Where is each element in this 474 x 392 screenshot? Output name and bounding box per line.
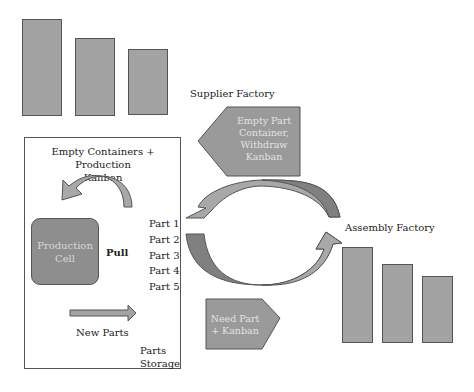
need-banner-text: Need Part + Kanban (208, 313, 262, 337)
cycle-arrow-bottom-icon (186, 232, 342, 285)
new-parts-arrow-icon (70, 305, 136, 321)
curved-arrow-return-icon (62, 175, 132, 207)
withdraw-banner-text: Empty Part Container, Withdraw Kanban (232, 115, 296, 163)
cycle-arrow-top-icon (186, 180, 340, 218)
cycle-arrow-bottom-highlight (262, 232, 342, 285)
